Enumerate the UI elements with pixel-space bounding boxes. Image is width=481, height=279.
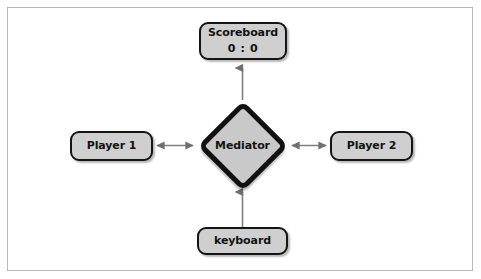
keyboard-label: keyboard	[214, 234, 271, 248]
scoreboard-label: Scoreboard	[208, 26, 278, 40]
mediator-label: Mediator	[215, 139, 270, 153]
node-scoreboard[interactable]: Scoreboard 0 : 0	[199, 22, 287, 60]
mediator-label-wrap: Mediator	[197, 100, 288, 191]
node-keyboard[interactable]: keyboard	[197, 227, 288, 255]
scoreboard-score: 0 : 0	[228, 42, 258, 56]
node-mediator[interactable]: Mediator	[197, 100, 288, 191]
player2-label: Player 2	[347, 139, 397, 153]
node-player2[interactable]: Player 2	[330, 131, 413, 161]
player1-label: Player 1	[87, 139, 137, 153]
node-player1[interactable]: Player 1	[70, 131, 153, 161]
diagram-root: Scoreboard 0 : 0 Player 1 Player 2 keybo…	[0, 0, 481, 279]
